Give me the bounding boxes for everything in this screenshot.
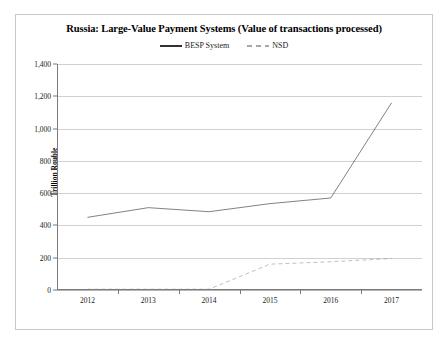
y-tick-label: 600 xyxy=(40,189,51,198)
y-tick-label: 1,000 xyxy=(34,124,51,133)
x-tick-mark xyxy=(118,290,119,294)
y-tick-label: 1,200 xyxy=(34,92,51,101)
x-tick-mark xyxy=(300,290,301,294)
x-tick-label: 2017 xyxy=(384,296,399,305)
x-tick-label: 2012 xyxy=(80,296,95,305)
x-tick-mark xyxy=(240,290,241,294)
chart-legend: BESP System NSD xyxy=(16,41,432,50)
chart-title: Russia: Large-Value Payment Systems (Val… xyxy=(16,23,432,34)
x-tick-mark xyxy=(179,290,180,294)
legend-label-nsd: NSD xyxy=(272,41,288,50)
y-tick-label: 400 xyxy=(40,221,51,230)
legend-item-besp-system: BESP System xyxy=(160,41,229,50)
plot-area: 02004006008001,0001,2001,400201220132014… xyxy=(57,64,422,290)
chart-figure: Russia: Large-Value Payment Systems (Val… xyxy=(15,14,433,330)
x-tick-label: 2013 xyxy=(141,296,156,305)
y-tick-label: 800 xyxy=(40,156,51,165)
y-tick-label: 200 xyxy=(40,253,51,262)
x-tick-label: 2014 xyxy=(202,296,217,305)
series-line-besp-system xyxy=(87,103,391,218)
dashed-line-swatch-icon xyxy=(247,42,269,50)
x-tick-mark xyxy=(361,290,362,294)
legend-item-nsd: NSD xyxy=(247,41,288,50)
series-layer xyxy=(57,64,422,290)
solid-line-swatch-icon xyxy=(160,42,182,50)
x-tick-label: 2016 xyxy=(323,296,338,305)
series-line-nsd xyxy=(87,259,391,290)
legend-label-besp-system: BESP System xyxy=(185,41,229,50)
x-tick-label: 2015 xyxy=(262,296,277,305)
y-tick-label: 1,400 xyxy=(34,60,51,69)
y-tick-label: 0 xyxy=(47,286,51,295)
